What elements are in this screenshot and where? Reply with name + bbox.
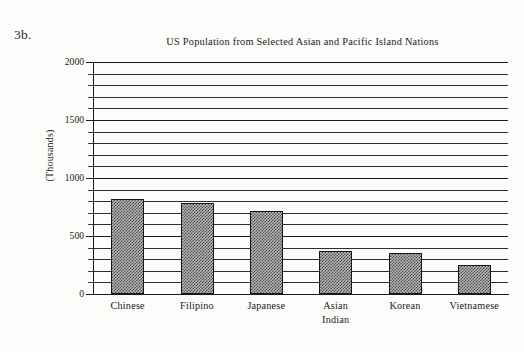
- x-axis-category-label: AsianIndian: [301, 299, 370, 326]
- x-axis-category-label-line: Japanese: [247, 300, 285, 311]
- x-axis-category-label-line: Vietnamese: [450, 300, 499, 311]
- figure-number-label: 3b.: [14, 27, 31, 43]
- x-axis-category-label: Japanese: [232, 299, 301, 313]
- y-axis-major-tick: [86, 120, 93, 121]
- y-axis-tick-labels: 0500100015002000: [38, 0, 84, 352]
- bar: [389, 253, 422, 294]
- y-axis-tick-label: 1000: [44, 172, 84, 183]
- x-axis-category-label-line: Asian: [323, 300, 348, 311]
- y-axis-tick-label: 1500: [44, 114, 84, 125]
- y-axis-major-tick: [86, 178, 93, 179]
- bar-series: [93, 62, 509, 294]
- bar: [250, 211, 283, 294]
- y-axis-tick-label: 2000: [44, 56, 84, 67]
- y-axis-major-tick: [86, 236, 93, 237]
- x-axis-category-label-line: Chinese: [111, 300, 145, 311]
- bar: [111, 199, 144, 294]
- bar: [181, 203, 214, 294]
- y-axis-major-tick: [86, 294, 93, 295]
- bar: [458, 265, 491, 294]
- x-axis-category-label: Chinese: [93, 299, 162, 313]
- x-axis-line: [93, 294, 509, 295]
- y-axis-tick-label: 0: [44, 288, 84, 299]
- bar: [319, 251, 352, 294]
- x-axis-category-label: Korean: [370, 299, 439, 313]
- x-axis-category-label-line: Korean: [389, 300, 420, 311]
- x-axis-category-label: Vietnamese: [440, 299, 509, 313]
- figure-container: 3b. US Population from Selected Asian an…: [0, 0, 524, 352]
- chart-title: US Population from Selected Asian and Pa…: [95, 36, 510, 47]
- x-axis-category-label-line: Filipino: [180, 300, 214, 311]
- y-axis-tick-label: 500: [44, 230, 84, 241]
- x-axis-category-label-line: Indian: [301, 313, 370, 327]
- y-axis-major-tick: [86, 62, 93, 63]
- x-axis-category-labels: ChineseFilipinoJapaneseAsianIndianKorean…: [93, 299, 509, 347]
- x-axis-category-label: Filipino: [162, 299, 231, 313]
